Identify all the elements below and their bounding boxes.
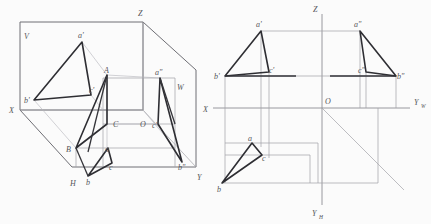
label-b-prime-right: b'	[214, 72, 220, 81]
label-origin-right: O	[325, 97, 331, 106]
label-origin-left: O	[140, 120, 146, 129]
descriptive-geometry-figure: V H W X Z Y O a' b' c' A B C a b c a" b"…	[0, 0, 431, 224]
label-plane-h: H	[69, 179, 77, 188]
label-b-prime-left: b'	[24, 96, 30, 105]
label-a-prime-left: a'	[78, 31, 84, 40]
label-b-left: b	[86, 178, 90, 187]
label-axis-z-right: Z	[313, 5, 318, 14]
triangle-h-edge-extra	[76, 148, 88, 176]
right-view-group: Z X Y W Y H O a' b' c' a b c a" b" c"	[202, 5, 426, 220]
box-edge-x-to-h	[20, 110, 72, 167]
miter-line-45deg	[322, 108, 404, 190]
label-c-right: c	[262, 154, 266, 163]
label-b-right: b	[217, 185, 221, 194]
label-a-prime-right: a'	[256, 20, 262, 29]
label-C-left: C	[113, 120, 119, 129]
triangle-v-projection	[34, 42, 91, 100]
figure-canvas: V H W X Z Y O a' b' c' A B C a b c a" b"…	[0, 0, 431, 224]
label-b-dprime-left: b"	[178, 163, 186, 172]
label-A-left: A	[103, 66, 109, 75]
label-plane-w: W	[177, 83, 185, 92]
label-axis-x-left: X	[8, 106, 15, 115]
projector-b1-to-b	[34, 100, 76, 148]
label-axis-y-left: Y	[197, 173, 203, 182]
box-edge-z-to-w	[143, 22, 196, 70]
label-axis-yw-sub: W	[421, 103, 426, 109]
label-c-left: c	[109, 163, 113, 172]
label-axis-x-right: X	[202, 105, 209, 114]
triangle-w-edge-extra	[160, 78, 175, 124]
label-c-dprime-left: c"	[152, 121, 160, 130]
label-c-dprime-right: c"	[358, 66, 366, 75]
label-a-dprime-right: a"	[354, 20, 362, 29]
label-axis-yw-right: Y	[414, 98, 420, 107]
label-c-prime-left: c'	[89, 86, 95, 95]
label-axis-yh-right: Y	[312, 209, 318, 218]
triangle-w-projection-right	[360, 31, 396, 76]
triangle-h-projection-right	[222, 143, 262, 183]
axis-oy-left	[143, 110, 196, 167]
label-B-left: B	[66, 145, 71, 154]
label-b-dprime-right: b"	[397, 72, 405, 81]
label-axis-z-left: Z	[138, 9, 143, 18]
label-c-prime-right: c'	[269, 66, 275, 75]
projector-a-to-a2	[107, 75, 160, 78]
triangle-v-projection-right	[225, 31, 269, 76]
label-plane-v: V	[24, 32, 30, 41]
label-a-left: a	[105, 145, 109, 154]
label-axis-yh-sub: H	[318, 214, 324, 220]
label-a-right: a	[248, 134, 252, 143]
label-a-dprime-left: a"	[155, 68, 163, 77]
left-view-group: V H W X Z Y O a' b' c' A B C a b c a" b"…	[8, 9, 203, 188]
